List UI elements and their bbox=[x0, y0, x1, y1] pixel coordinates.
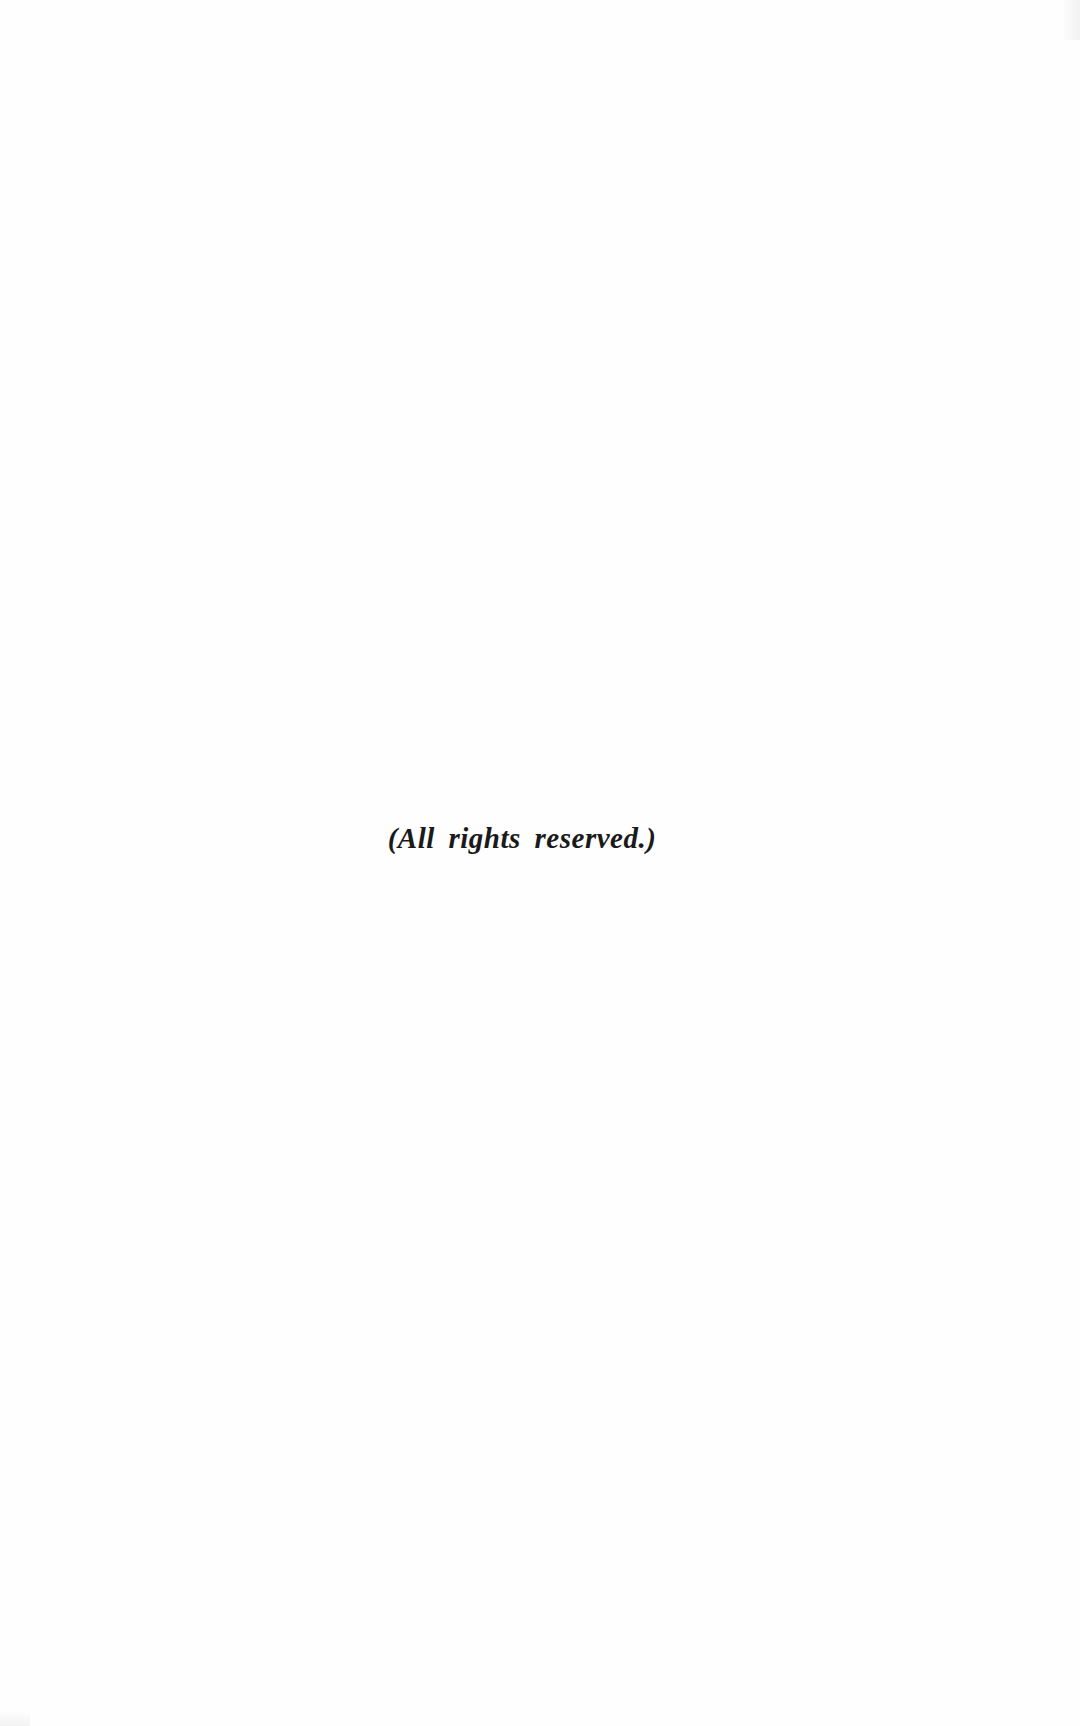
scan-edge-shadow bbox=[0, 1710, 30, 1726]
document-page: (All rights reserved.) bbox=[0, 0, 1080, 1726]
scan-edge-shadow bbox=[1062, 0, 1080, 40]
rights-notice: (All rights reserved.) bbox=[0, 822, 1044, 855]
